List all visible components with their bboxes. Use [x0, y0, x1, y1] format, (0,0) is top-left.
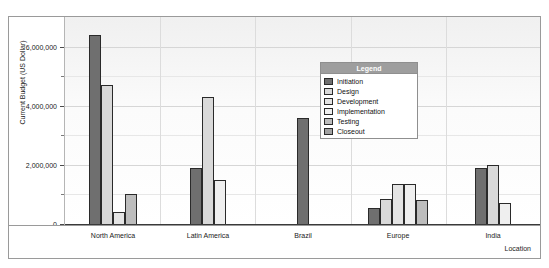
bar[interactable] [368, 208, 380, 224]
legend-item[interactable]: Implementation [324, 106, 414, 116]
legend-item[interactable]: Design [324, 86, 414, 96]
bar[interactable] [404, 184, 416, 224]
bar[interactable] [101, 85, 113, 224]
legend-swatch-icon [324, 118, 333, 125]
bar-group [368, 184, 428, 224]
legend-title: Legend [357, 65, 382, 72]
legend[interactable]: Legend InitiationDesignDevelopmentImplem… [320, 62, 418, 139]
bar[interactable] [297, 118, 309, 224]
bar-group [190, 97, 226, 224]
x-axis-tick-label: Europe [387, 232, 410, 239]
legend-header: Legend [321, 63, 417, 74]
y-axis-gutter: Current Budget (US Dollar) 02,000,0004,0… [9, 17, 65, 225]
category-divider [446, 17, 447, 225]
y-axis-tick-mark [61, 76, 64, 77]
legend-swatch-icon [324, 88, 333, 95]
y-axis-tick-label: 6,000,000 [26, 43, 57, 50]
bar[interactable] [214, 180, 226, 224]
y-axis-tick-mark [61, 194, 64, 195]
legend-swatch-icon [324, 128, 333, 135]
chart-screenshot: Current Budget (US Dollar) 02,000,0004,0… [0, 0, 549, 268]
bar[interactable] [202, 97, 214, 224]
legend-item-label: Testing [337, 118, 359, 125]
x-axis-tick-label: Brazil [294, 232, 312, 239]
clipped-header-text [0, 0, 549, 10]
legend-swatch-icon [324, 108, 333, 115]
y-axis-tick-label: 2,000,000 [26, 161, 57, 168]
bar[interactable] [475, 168, 487, 224]
legend-item-label: Closeout [337, 128, 365, 135]
legend-items: InitiationDesignDevelopmentImplementatio… [321, 74, 417, 138]
bar[interactable] [392, 184, 404, 224]
legend-item[interactable]: Initiation [324, 76, 414, 86]
bar[interactable] [499, 203, 511, 224]
legend-item[interactable]: Development [324, 96, 414, 106]
bar-group [297, 118, 309, 224]
bar[interactable] [113, 212, 125, 224]
bar[interactable] [125, 194, 137, 224]
y-axis-tick-label: 4,000,000 [26, 102, 57, 109]
y-axis-tick-mark [60, 165, 64, 166]
bar[interactable] [89, 35, 101, 224]
legend-item-label: Initiation [337, 78, 363, 85]
bar[interactable] [190, 168, 202, 224]
category-divider [160, 17, 161, 225]
y-axis-tick-mark [60, 106, 64, 107]
legend-item[interactable]: Closeout [324, 126, 414, 136]
x-axis-title: Location [505, 245, 531, 252]
bar[interactable] [487, 165, 499, 224]
legend-item-label: Development [337, 98, 378, 105]
legend-swatch-icon [324, 78, 333, 85]
x-axis-tick-label: India [485, 232, 500, 239]
bar[interactable] [380, 199, 392, 224]
legend-item-label: Implementation [337, 108, 385, 115]
chart-frame: Current Budget (US Dollar) 02,000,0004,0… [8, 16, 541, 259]
legend-item[interactable]: Testing [324, 116, 414, 126]
y-axis-tick-mark [60, 47, 64, 48]
bar-group [89, 35, 137, 224]
plot-area [65, 17, 540, 225]
bar-group [475, 165, 511, 224]
legend-item-label: Design [337, 88, 359, 95]
x-axis-tick-label: Latin America [187, 232, 229, 239]
y-axis-title: Current Budget (US Dollar) [19, 8, 26, 158]
x-axis-band: North AmericaLatin AmericaBrazilEuropeIn… [9, 225, 540, 258]
y-axis-tick-mark [61, 135, 64, 136]
x-axis-tick-label: North America [91, 232, 135, 239]
legend-swatch-icon [324, 98, 333, 105]
category-divider [255, 17, 256, 225]
bar[interactable] [416, 200, 428, 224]
